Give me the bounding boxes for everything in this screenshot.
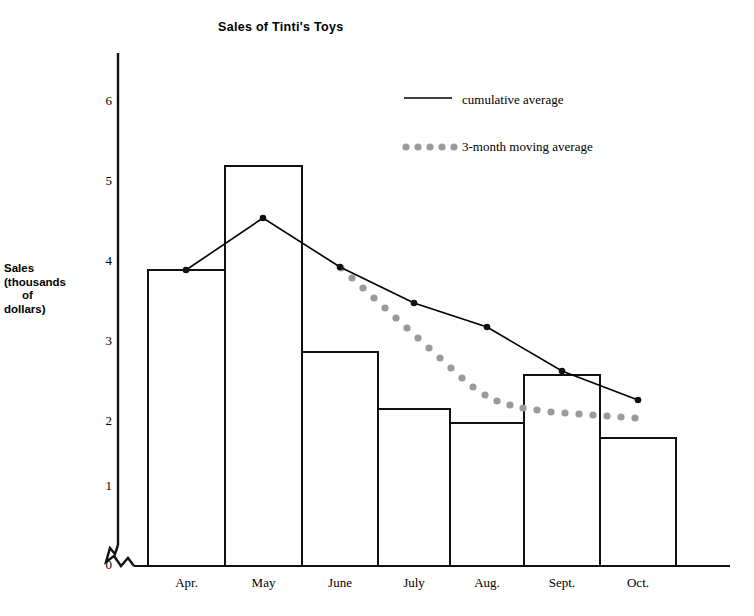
legend-marker-dotted-line-icon [402,143,457,150]
bar-sept [524,375,600,566]
bar-oct [600,438,676,566]
bar-july [378,409,450,566]
bar-june [302,352,378,566]
bar-apr [148,270,225,566]
bar-may [225,166,302,566]
axis-break-icon [106,545,134,566]
bar-aug [450,423,524,566]
chart-container: Sales of Tinti's Toys Sales (thousands o… [0,0,754,616]
chart-plot-area [0,0,754,616]
